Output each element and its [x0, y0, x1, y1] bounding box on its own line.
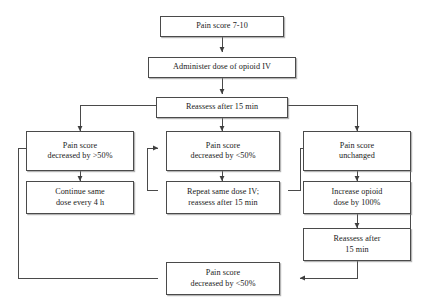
node-administer-line-1: Administer dose of opioid IV [173, 62, 271, 73]
node-unchanged-line-2: unchanged [339, 151, 375, 162]
node-repeat-line-2: reassess after 15 min [188, 198, 257, 209]
node-repeat-line-1: Repeat same dose IV; [187, 187, 259, 198]
node-pain-unchanged[interactable]: Pain score unchanged [303, 131, 411, 171]
node-pain-decreased-lt50[interactable]: Pain score decreased by <50% [166, 131, 280, 171]
node-reassess-right-line-1: Reassess after [334, 234, 381, 245]
node-start[interactable]: Pain score 7-10 [160, 16, 284, 37]
node-reassess-right-line-2: 15 min [345, 245, 368, 256]
node-increase-line-1: Increase opioid [332, 187, 383, 198]
node-lt50-line-2: decreased by <50% [190, 151, 255, 162]
node-continue-line-1: Continue same [55, 187, 105, 198]
node-bottom-line-1: Pain score [206, 268, 240, 279]
node-bottom-line-2: decreased by <50% [190, 279, 255, 290]
node-repeat-same-dose[interactable]: Repeat same dose IV; reassess after 15 m… [166, 181, 280, 214]
node-increase-line-2: dose by 100% [334, 198, 381, 209]
node-gt50-line-2: decreased by >50% [47, 151, 112, 162]
node-increase-opioid-dose[interactable]: Increase opioid dose by 100% [303, 181, 411, 214]
node-reassess-top-line-1: Reassess after 15 min [186, 102, 258, 113]
node-continue-line-2: dose every 4 h [56, 198, 104, 209]
node-bottom-pain-decreased-lt50[interactable]: Pain score decreased by <50% [166, 262, 280, 295]
node-lt50-line-1: Pain score [206, 141, 240, 152]
node-reassess-top[interactable]: Reassess after 15 min [156, 97, 288, 118]
node-pain-decreased-gt50[interactable]: Pain score decreased by >50% [26, 131, 134, 171]
node-gt50-line-1: Pain score [63, 141, 97, 152]
node-reassess-right[interactable]: Reassess after 15 min [303, 228, 411, 261]
edge-repeat-loop-to-lt50 [147, 148, 158, 190]
node-unchanged-line-1: Pain score [340, 141, 374, 152]
edge-reassess-right-to-bottom [300, 261, 357, 278]
node-continue-same-dose[interactable]: Continue same dose every 4 h [26, 181, 134, 214]
node-start-line-1: Pain score 7-10 [196, 21, 248, 32]
node-administer-dose[interactable]: Administer dose of opioid IV [148, 57, 296, 78]
flowchart-canvas: Pain score 7-10 Administer dose of opioi… [0, 0, 440, 308]
